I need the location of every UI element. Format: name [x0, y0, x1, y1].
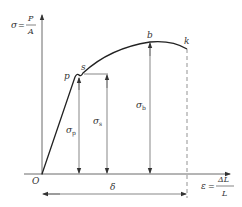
- stress-strain-diagram: σ = P A ε = ΔL L O p s b k σ p σ s σ b δ: [0, 0, 242, 207]
- svg-text:=: =: [18, 21, 25, 30]
- x-axis-label: ε = ΔL L: [201, 175, 234, 198]
- svg-text:ε: ε: [201, 181, 206, 191]
- svg-text:P: P: [27, 14, 34, 23]
- elongation-label: δ: [110, 182, 115, 192]
- svg-text:L: L: [221, 189, 227, 198]
- point-p-label: p: [64, 71, 70, 81]
- svg-text:s: s: [99, 120, 102, 127]
- stress-strain-curve: [42, 42, 187, 174]
- svg-text:A: A: [27, 27, 34, 36]
- y-axis-label: σ = P A: [11, 14, 36, 36]
- point-b-label: b: [147, 30, 153, 40]
- origin-label: O: [32, 176, 40, 186]
- svg-text:σ: σ: [11, 20, 18, 30]
- svg-text:=: =: [208, 182, 215, 191]
- svg-text:b: b: [142, 104, 146, 111]
- svg-text:ΔL: ΔL: [217, 175, 229, 184]
- sigma-b-label: σ b: [136, 100, 146, 111]
- point-k-label: k: [184, 36, 189, 46]
- sigma-p-label: σ p: [66, 125, 76, 137]
- svg-text:p: p: [72, 129, 76, 137]
- point-s-label: s: [81, 62, 86, 72]
- sigma-s-label: σ s: [93, 116, 102, 127]
